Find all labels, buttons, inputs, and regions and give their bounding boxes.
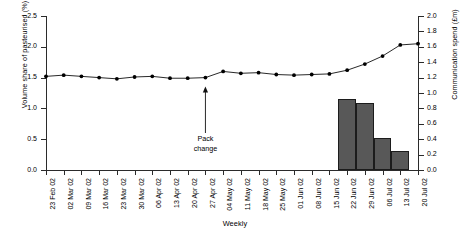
pack-change-line1: Pack [165,134,245,144]
chart-container: Volume share of pasteurised (%) Communic… [0,0,470,239]
pack-change-line2: change [165,144,245,154]
pack-change-arrow [0,0,470,239]
pack-change-annotation: Pack change [165,134,245,154]
